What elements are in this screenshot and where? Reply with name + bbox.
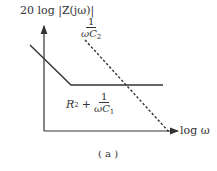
solid-curve	[30, 45, 163, 85]
fraction-numerator: 1	[86, 16, 96, 28]
solid-curve-label: R2 + 1 ωC1	[66, 91, 114, 118]
caption: ( a )	[98, 148, 118, 159]
fraction: 1 ωC1	[94, 91, 114, 118]
fraction-denominator: ωC2	[81, 28, 101, 43]
bode-plot	[0, 0, 217, 171]
dashed-curve-label: 1 ωC2	[81, 16, 101, 43]
dashed-curve	[85, 40, 170, 133]
x-axis-label: log ω	[180, 124, 210, 137]
